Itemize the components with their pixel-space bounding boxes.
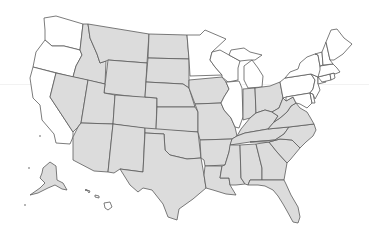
state-hi [87,190,112,210]
state-nm [108,124,145,173]
state-ks [156,107,198,132]
state-me [326,29,352,60]
state-wy [104,60,147,98]
channel-island-dot [39,135,41,137]
state-fl [248,180,300,223]
aleutian-island-dot [24,204,26,206]
aleutian-island-dot [28,167,30,169]
state-az [73,123,113,172]
state-ak [30,162,67,195]
hawaii-island-dot [85,189,87,191]
state-nd [148,34,189,59]
states-layer [30,16,352,223]
us-map [0,0,369,237]
us-map-container [0,0,369,237]
